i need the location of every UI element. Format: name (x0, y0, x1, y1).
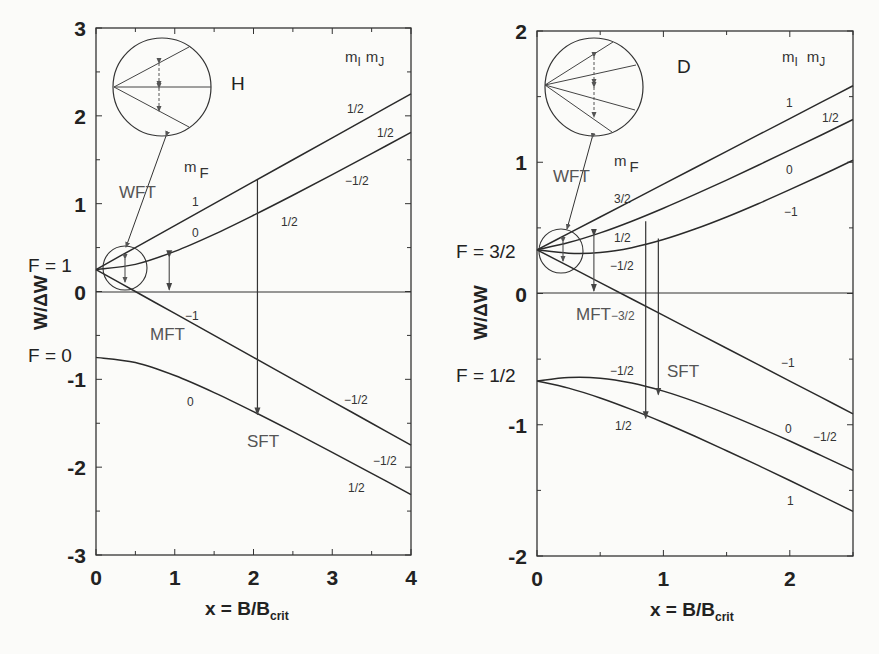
x-tick-label: 3 (326, 566, 338, 589)
x-tick-label: 0 (531, 567, 543, 590)
x-tick-label: 4 (405, 566, 417, 589)
sft-label: SFT (667, 362, 699, 381)
x-tick-label: 2 (248, 566, 260, 589)
y-tick-label: 3 (74, 17, 86, 40)
mf-label: 0 (192, 226, 199, 240)
mi-label: −1 (781, 356, 795, 370)
sft-label: SFT (247, 432, 279, 451)
energy-level-curve (537, 250, 853, 414)
svg-text:mImJ: mImJ (782, 48, 825, 69)
y-tick-label: -1 (508, 414, 527, 437)
mj-label: 1/2 (281, 215, 298, 229)
x-axis-title: x = B/Bcrit (650, 599, 734, 624)
y-tick-label: 1 (74, 193, 86, 216)
energy-level-curve (96, 357, 411, 494)
panel-deuterium: 012-2-1012 D mImJ mF WFT MFT−3/2 SFT 3/2… (456, 20, 853, 624)
y-tick-label: 0 (515, 283, 527, 306)
x-tick-label: 1 (169, 566, 181, 589)
mf-header: mF (614, 152, 639, 175)
mf-header: mF (184, 158, 209, 181)
level-label-upper: F = 3/2 (456, 241, 516, 262)
mf-label: −1/2 (610, 364, 634, 378)
y-axis-title: W/ΔW (470, 285, 491, 340)
mi-label: 0 (786, 163, 793, 177)
x-tick-label: 1 (658, 567, 670, 590)
y-tick-label: 0 (74, 281, 86, 304)
mft-label: MFT (150, 325, 185, 344)
energy-level-curve (537, 381, 853, 511)
y-tick-label: 2 (515, 20, 527, 43)
level-label-lower: F = 0 (28, 345, 72, 366)
mf-label: 1/2 (615, 419, 632, 433)
energy-level-curve (96, 270, 411, 446)
y-tick-label: 1 (515, 151, 527, 174)
deuterium-energy-curves (537, 86, 853, 512)
element-label-h: H (231, 73, 245, 94)
mi-label: 1 (787, 494, 794, 508)
wft-inset-circle (113, 38, 211, 136)
figure: 01234-3-2-10123 H mImJ mF WFT MFT SFT 1 … (0, 0, 879, 654)
mj-label: 1/2 (822, 111, 839, 125)
mft-label: MFT−3/2 (576, 305, 635, 324)
axis-ticks: 012-2-1012 (508, 20, 853, 590)
mi-label: 0 (785, 422, 792, 436)
level-label-lower: F = 1/2 (456, 365, 516, 386)
wft-label: WFT (553, 167, 590, 186)
y-tick-label: -2 (67, 456, 86, 479)
axis-ticks: 01234-3-2-10123 (67, 17, 417, 589)
panel-hydrogen: 01234-3-2-10123 H mImJ mF WFT MFT SFT 1 … (28, 17, 417, 623)
mf-label: 0 (187, 395, 194, 409)
svg-text:mF: mF (614, 152, 639, 175)
level-label-upper: F = 1 (28, 255, 72, 276)
y-tick-label: -3 (67, 544, 86, 567)
mj-label: −1/2 (344, 393, 368, 407)
mi-mj-header: mImJ (782, 48, 825, 69)
mi-label: −1/2 (345, 174, 369, 188)
x-axis-title: x = B/Bcrit (205, 598, 289, 623)
y-tick-label: -2 (508, 545, 527, 568)
mj-label: −1/2 (373, 454, 397, 468)
svg-text:mImJ: mImJ (345, 48, 384, 69)
x-tick-label: 0 (90, 566, 102, 589)
y-tick-label: -1 (67, 368, 86, 391)
mi-mj-header: mImJ (345, 48, 384, 69)
x-tick-label: 2 (784, 567, 796, 590)
mi-label: 1/2 (348, 481, 365, 495)
y-axis-title: W/ΔW (30, 275, 51, 330)
mi-label: 1 (786, 96, 793, 110)
mf-label: 1/2 (614, 231, 631, 245)
mf-label: −1/2 (610, 259, 634, 273)
mi-label: 1/2 (347, 102, 364, 116)
mj-label: 1/2 (377, 126, 394, 140)
mf-label: 1 (192, 195, 199, 209)
mf-label: 3/2 (614, 192, 631, 206)
element-label-d: D (677, 56, 691, 77)
svg-text:mF: mF (184, 158, 209, 181)
mi-label: −1 (784, 205, 798, 219)
mj-label: −1/2 (813, 430, 837, 444)
energy-level-curve (537, 377, 853, 470)
y-tick-label: 2 (74, 105, 86, 128)
wft-inset-circle (545, 38, 643, 136)
mf-label: −1 (185, 309, 199, 323)
wft-label: WFT (119, 183, 156, 202)
